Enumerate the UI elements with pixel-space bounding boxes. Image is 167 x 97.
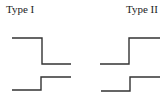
step-waveform-diagram [0, 0, 167, 97]
type-1-group [12, 38, 71, 90]
type-2-lower-rising-step [101, 77, 160, 91]
type-2-group [100, 38, 160, 91]
type-1-upper-falling-step [12, 38, 71, 64]
type-2-upper-rising-step [100, 38, 160, 64]
type-1-lower-rising-step [12, 77, 71, 90]
